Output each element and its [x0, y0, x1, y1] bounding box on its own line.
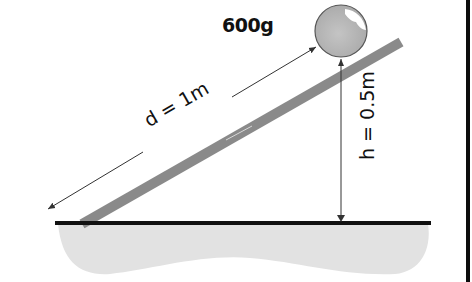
mass-label: 600g	[222, 14, 273, 36]
height-label: h = 0.5m	[356, 71, 378, 160]
height-arrow-bottom-head	[337, 215, 345, 222]
inclined-plane-diagram	[0, 0, 472, 282]
right-border	[466, 0, 470, 282]
ramp	[82, 42, 401, 224]
ground-fill	[58, 224, 429, 274]
ball	[315, 5, 367, 57]
distance-arrow-upper	[232, 47, 316, 97]
